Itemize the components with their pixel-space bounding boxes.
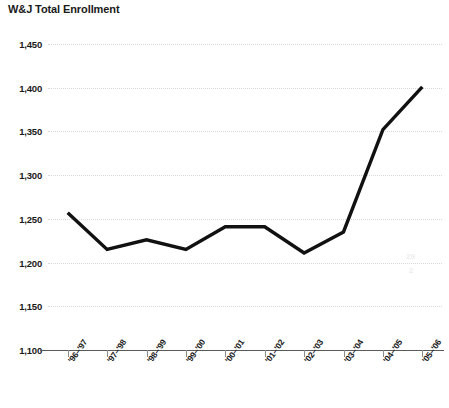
y-axis-tick-label: 1,300 xyxy=(19,170,42,181)
gridline xyxy=(48,88,442,89)
gridline xyxy=(48,175,442,176)
y-axis-tick-labels: 1,1001,1501,2001,2501,3001,3501,4001,450 xyxy=(0,44,42,350)
chart-container: W&J Total Enrollment 1,1001,1501,2001,25… xyxy=(0,0,449,408)
plot-area xyxy=(48,44,442,350)
chart-title: W&J Total Enrollment xyxy=(8,3,119,15)
y-axis-tick-label: 1,250 xyxy=(19,213,42,224)
gridline xyxy=(48,306,442,307)
gridline xyxy=(48,219,442,220)
gridline xyxy=(48,44,442,45)
y-axis-tick-label: 1,150 xyxy=(19,301,42,312)
gridline xyxy=(48,263,442,264)
y-axis-tick-label: 1,100 xyxy=(19,345,42,356)
y-axis-tick-label: 1,450 xyxy=(19,39,42,50)
scan-artifact-upper: 29 xyxy=(406,252,415,261)
y-axis-tick-label: 1,350 xyxy=(19,126,42,137)
y-axis-tick-label: 1,200 xyxy=(19,257,42,268)
scan-artifact-lower: 2 xyxy=(409,266,413,275)
y-axis-tick-label: 1,400 xyxy=(19,82,42,93)
gridline xyxy=(48,131,442,132)
